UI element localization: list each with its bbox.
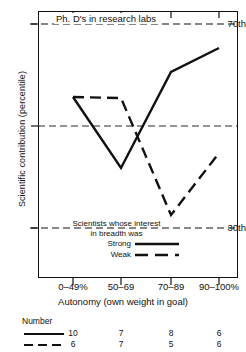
x-axis-title: Autonomy (own weight in goal)	[0, 296, 246, 307]
chart-legend: Scientists whose interest in breadth was…	[54, 219, 179, 260]
legend-item-weak: Weak	[54, 249, 179, 260]
series-line-strong	[73, 48, 219, 168]
counts-strong-0: 10	[58, 328, 88, 338]
counts-row-weak: 6 7 5 6	[0, 339, 246, 351]
legend-item-strong: Strong	[54, 238, 179, 249]
chart-title: Ph. D's in research labs	[54, 13, 158, 24]
counts-table-title: Number	[22, 316, 52, 326]
chart-figure: Scientific contribution (percentile) 70t…	[0, 0, 246, 352]
legend-caption-line-2: in breadth was	[54, 229, 179, 239]
counts-strong-1: 7	[106, 328, 136, 338]
legend-label-strong: Strong	[107, 239, 131, 248]
counts-weak-0: 6	[58, 339, 88, 349]
legend-swatch-solid-icon	[135, 240, 179, 248]
x-tick-label-3: 90–100%	[189, 281, 246, 292]
counts-weak-3: 6	[204, 339, 234, 349]
counts-weak-1: 7	[106, 339, 136, 349]
legend-swatch-dashed-icon	[135, 251, 179, 259]
series-line-weak	[73, 97, 219, 215]
legend-caption-line-1: Scientists whose interest	[54, 219, 179, 229]
counts-weak-2: 5	[156, 339, 186, 349]
counts-strong-3: 6	[204, 328, 234, 338]
counts-strong-2: 8	[156, 328, 186, 338]
legend-label-weak: Weak	[111, 250, 131, 259]
